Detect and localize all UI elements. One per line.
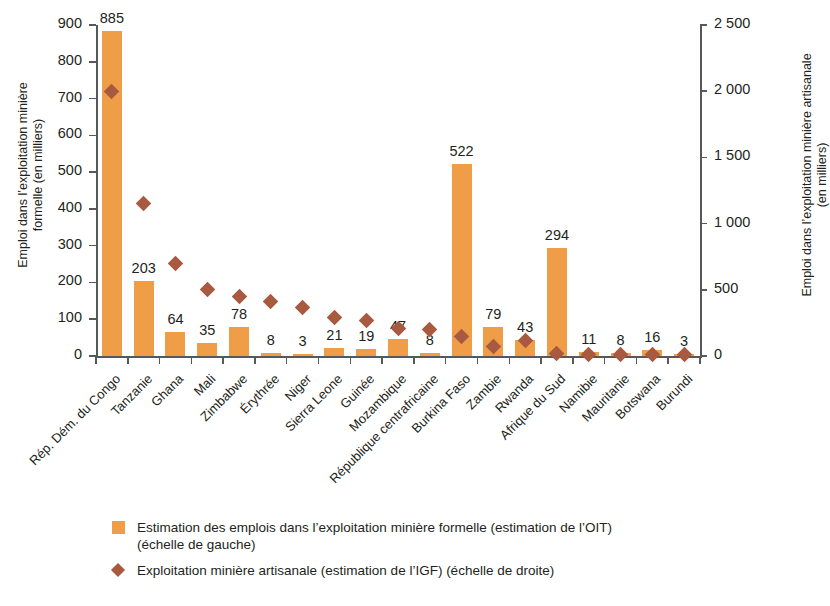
- x-axis-tick: [509, 357, 511, 364]
- y-axis-right-tick-label: 1 500: [714, 147, 774, 163]
- x-axis-tick: [159, 357, 161, 364]
- y-axis-left-tick: [89, 171, 96, 173]
- y-axis-right-tick-label: 2 000: [714, 81, 774, 97]
- legend-label-1: Exploitation minière artisanale (estimat…: [137, 562, 802, 579]
- legend-diamond-swatch-icon: [111, 563, 125, 577]
- x-axis-tick: [381, 357, 383, 364]
- y-axis-left-tick: [89, 245, 96, 247]
- y-axis-left-tick-label: 700: [28, 89, 82, 105]
- y-axis-left-tick: [89, 135, 96, 137]
- y-axis-left-tick-label: 600: [28, 125, 82, 141]
- y-axis-right-tick-label: 0: [714, 346, 774, 362]
- y-axis-left-tick: [89, 98, 96, 100]
- y-axis-right-tick: [700, 289, 707, 291]
- diamond-marker-7: [327, 310, 343, 326]
- legend-item-1: Exploitation minière artisanale (estimat…: [112, 562, 802, 579]
- y-axis-left-tick-label: 500: [28, 162, 82, 178]
- y-axis-left-tick-label: 100: [28, 309, 82, 325]
- x-axis-tick: [318, 357, 320, 364]
- y-axis-left-tick: [89, 355, 96, 357]
- x-axis-tick: [572, 357, 574, 364]
- y-axis-right-tick: [700, 157, 707, 159]
- bar-8: [356, 349, 376, 356]
- y-axis-left-tick-label: 200: [28, 272, 82, 288]
- bar-0: [102, 31, 122, 356]
- bar-5: [261, 353, 281, 356]
- bar-value-label-11: 522: [432, 143, 492, 159]
- diamond-marker-18: [676, 347, 692, 363]
- diamond-marker-3: [199, 282, 215, 298]
- bar-7: [324, 348, 344, 356]
- diamond-marker-1: [136, 196, 152, 212]
- x-axis-tick: [699, 357, 701, 364]
- legend-bar-swatch-icon: [112, 521, 125, 534]
- y-axis-right-tick: [700, 90, 707, 92]
- x-axis-tick: [604, 357, 606, 364]
- y-axis-left-tick-label: 0: [28, 346, 82, 362]
- y-axis-left-tick-label: 400: [28, 199, 82, 215]
- bar-value-label-0: 885: [82, 10, 142, 26]
- y-axis-right-title: Emploi dans l’exploitation minière artis…: [800, 50, 830, 300]
- y-axis-left-tick-label: 900: [28, 15, 82, 31]
- bar-3: [197, 343, 217, 356]
- x-axis-baseline: [96, 356, 702, 358]
- y-axis-right-tick-label: 500: [714, 280, 774, 296]
- bar-11: [452, 164, 472, 356]
- diamond-marker-6: [295, 299, 311, 315]
- y-axis-left-tick: [89, 318, 96, 320]
- bar-6: [293, 354, 313, 356]
- y-axis-right-tick: [700, 223, 707, 225]
- x-axis-tick: [445, 357, 447, 364]
- y-axis-left-tick-label: 800: [28, 52, 82, 68]
- axis-spine: [700, 25, 702, 356]
- axis-spine: [96, 25, 98, 356]
- x-axis-tick: [477, 357, 479, 364]
- y-axis-left-tick: [89, 24, 96, 26]
- y-axis-right-tick-label: 2 500: [714, 15, 774, 31]
- y-axis-right-tick: [700, 24, 707, 26]
- x-axis-tick: [191, 357, 193, 364]
- y-axis-left-tick: [89, 282, 96, 284]
- diamond-marker-4: [231, 289, 247, 305]
- legend-label-0: Estimation des emplois dans l’exploitati…: [137, 519, 802, 536]
- x-axis-tick: [254, 357, 256, 364]
- bar-value-label-14: 294: [527, 227, 587, 243]
- x-axis-tick: [413, 357, 415, 364]
- x-axis-tick: [350, 357, 352, 364]
- diamond-marker-15: [581, 346, 597, 362]
- x-axis-tick: [95, 357, 97, 364]
- bar-value-label-4: 78: [209, 306, 269, 322]
- legend-sublabel-0: (échelle de gauche): [137, 536, 802, 553]
- x-axis-tick: [127, 357, 129, 364]
- y-axis-left-tick: [89, 61, 96, 63]
- legend-item-0: Estimation des emplois dans l’exploitati…: [112, 519, 802, 553]
- x-axis-tick: [540, 357, 542, 364]
- x-axis-tick: [667, 357, 669, 364]
- bar-10: [420, 353, 440, 356]
- y-axis-left-tick: [89, 208, 96, 210]
- chart-legend: Estimation des emplois dans l’exploitati…: [112, 519, 802, 588]
- y-axis-right-tick: [700, 355, 707, 357]
- x-axis-tick: [286, 357, 288, 364]
- diamond-marker-16: [613, 346, 629, 362]
- y-axis-right-tick-label: 1 000: [714, 214, 774, 230]
- y-axis-left-tick-label: 300: [28, 236, 82, 252]
- x-axis-tick: [222, 357, 224, 364]
- bar-value-label-1: 203: [114, 260, 174, 276]
- x-axis-tick: [636, 357, 638, 364]
